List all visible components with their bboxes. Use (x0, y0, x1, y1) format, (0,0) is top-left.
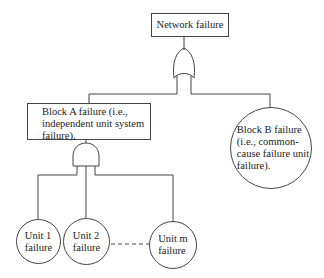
connector-and-to-unit-m (95, 166, 173, 221)
block-a-line-2: independent unit system (42, 118, 150, 130)
block-b-circle: Block B failure (i.e., common- cause fai… (230, 107, 312, 189)
block-b-line-2: (i.e., common- (237, 136, 309, 148)
unit-1-circle: Unit 1 failure (16, 219, 61, 264)
connector-and-to-unit-1 (38, 166, 77, 219)
connector-or-to-block-b (191, 76, 270, 107)
unit-m-line-1: Unit m (158, 233, 187, 245)
block-a-line-3: failure). (42, 130, 150, 142)
block-a-box: Block A failure (i.e., independent unit … (27, 103, 151, 140)
unit-m-line-2: failure (158, 245, 187, 257)
unit-2-line-1: Unit 2 (73, 230, 100, 242)
connector-or-to-block-a (89, 76, 177, 103)
and-gate-icon (73, 143, 99, 166)
unit-1-line-1: Unit 1 (25, 230, 52, 242)
block-b-line-3: cause failure unit (237, 148, 309, 160)
unit-m-circle: Unit m failure (149, 221, 197, 269)
unit-2-line-2: failure (73, 242, 100, 254)
block-b-line-4: failure). (237, 160, 309, 172)
or-gate-icon (173, 48, 194, 78)
top-event-box: Network failure (151, 13, 229, 37)
unit-2-circle: Unit 2 failure (63, 218, 110, 265)
top-event-label: Network failure (157, 19, 224, 31)
block-b-line-1: Block B failure (237, 124, 309, 136)
block-a-line-1: Block A failure (i.e., (42, 106, 150, 118)
unit-1-line-2: failure (25, 242, 52, 254)
